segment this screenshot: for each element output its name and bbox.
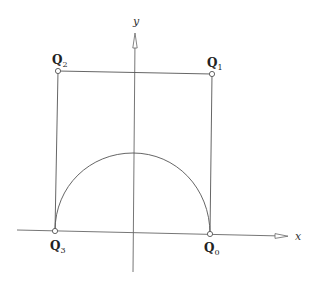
edge-q2-q3 [55, 71, 58, 231]
point-q1-marker [209, 71, 214, 76]
semicircle-arc [55, 153, 210, 234]
y-axis [133, 33, 137, 272]
y-axis-arrow-icon [133, 33, 137, 48]
y-axis-label: y [132, 15, 140, 28]
edge-q0-q1 [210, 74, 212, 234]
point-q1-label: Q1 [207, 56, 223, 72]
point-q2-marker [55, 68, 60, 73]
point-q0-label: Q0 [204, 241, 220, 257]
point-q2-label: Q2 [52, 53, 68, 69]
x-axis-arrow-icon [275, 234, 288, 239]
bezier-control-polygon-diagram: Q2 Q1 Q3 Q0 y x [0, 0, 317, 287]
point-q3-label: Q3 [50, 239, 66, 255]
point-q0-marker [207, 231, 212, 236]
x-axis-label: x [295, 230, 302, 243]
point-q3-marker [52, 228, 57, 233]
